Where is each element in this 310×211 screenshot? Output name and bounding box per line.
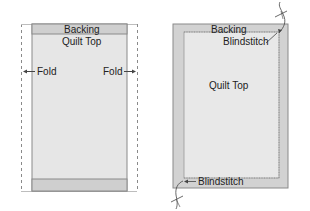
right-diagram-shapes xyxy=(0,0,310,211)
quilt-top-label: Quilt Top xyxy=(209,81,248,91)
blindstitch-bottom-label: Blindstitch xyxy=(198,177,244,187)
backing-label: Backing xyxy=(211,25,247,35)
blindstitch-top-label: Blindstitch xyxy=(223,37,269,47)
